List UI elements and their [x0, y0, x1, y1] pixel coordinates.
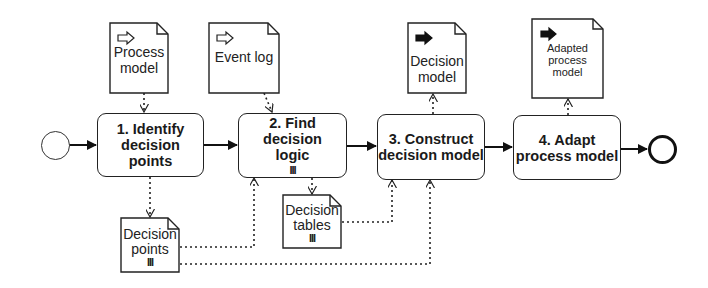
doc-label-line1: Adapted	[532, 42, 603, 54]
task-label-line1: 3. Construct	[389, 131, 474, 147]
task-label-line2: decision model	[378, 147, 484, 163]
doc-label-line3: model	[532, 66, 603, 78]
doc-label-line1: Process	[110, 44, 168, 60]
collection-marker-icon: III	[121, 257, 179, 268]
assoc-decision-tables-to-t3	[342, 180, 392, 222]
doc-label-line1: Decision	[283, 203, 341, 218]
doc-label-line2: model	[408, 69, 466, 85]
io-arrows	[118, 28, 556, 44]
data-object-decision-tables[interactable]: Decision tables III	[283, 195, 341, 248]
end-event[interactable]	[648, 135, 677, 164]
data-object-decision-model[interactable]: Decision model	[408, 23, 466, 93]
task-adapt-process-model[interactable]: 4. Adapt process model	[513, 115, 621, 180]
task-label-line2: decision points	[98, 137, 203, 169]
task-label-line2: logic	[276, 147, 310, 163]
doc-label-line1: Event log	[209, 49, 279, 65]
assoc-event-log-to-t2	[264, 93, 272, 112]
multi-instance-marker-icon: III	[289, 164, 295, 176]
start-event[interactable]	[41, 131, 70, 160]
data-object-adapted-process-model[interactable]: Adapted process model	[532, 19, 603, 98]
task-find-decision-logic[interactable]: 2. Find decision logic III	[238, 113, 347, 178]
doc-label-line2: tables	[283, 218, 341, 233]
data-object-decision-points[interactable]: Decision points III	[121, 218, 179, 272]
assoc-decision-points-to-t2	[180, 178, 254, 247]
task-label-line1: 2. Find decision	[239, 115, 346, 147]
task-label-line1: 4. Adapt	[539, 132, 596, 148]
doc-label-line2: process	[532, 54, 603, 66]
data-object-process-model[interactable]: Process model	[110, 23, 168, 93]
doc-label-line1: Decision	[121, 227, 179, 242]
task-construct-decision-model[interactable]: 3. Construct decision model	[377, 114, 485, 180]
task-label-line2: process model	[516, 148, 618, 164]
doc-label-line1: Decision	[408, 53, 466, 69]
collection-marker-icon: III	[283, 233, 341, 244]
doc-label-line2: model	[110, 60, 168, 76]
task-identify-decision-points[interactable]: 1. Identify decision points	[97, 113, 204, 177]
task-label-line1: 1. Identify	[117, 121, 185, 137]
data-associations	[144, 93, 568, 264]
doc-label-line2: points	[121, 242, 179, 257]
data-object-event-log[interactable]: Event log	[209, 23, 279, 93]
